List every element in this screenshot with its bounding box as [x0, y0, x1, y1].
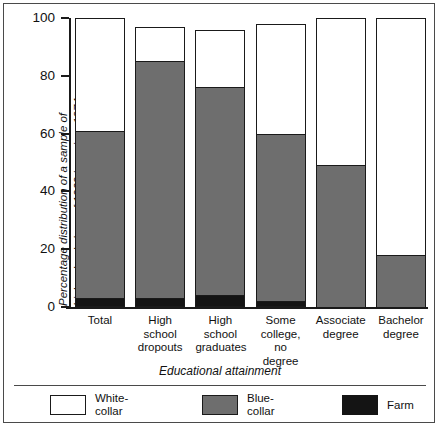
legend-label: White-collar	[95, 392, 128, 418]
bar-segment-white-collar[interactable]	[256, 24, 306, 134]
bar-segment-white-collar[interactable]	[316, 18, 366, 165]
x-tick-label-line: school	[135, 328, 185, 342]
legend-row: White-collarBlue-collarFarm	[50, 390, 426, 420]
y-tick-mark: 40	[61, 190, 69, 192]
bar-group	[75, 18, 426, 307]
x-axis-line	[66, 307, 428, 309]
white-collar-swatch	[50, 395, 86, 415]
bar-segment-farm[interactable]	[195, 295, 245, 307]
legend-item[interactable]: Farm	[342, 395, 426, 415]
y-tick-mark: 20	[61, 248, 69, 250]
x-tick-label: Total	[75, 314, 125, 362]
bar-column[interactable]	[256, 18, 306, 307]
y-tick-label: 20	[40, 241, 55, 256]
bar-column[interactable]	[376, 18, 426, 307]
legend-item[interactable]: Blue-collar	[202, 392, 342, 418]
x-tick-label: Highschooldropouts	[135, 314, 185, 362]
x-tick-label-line: degree	[316, 328, 366, 342]
x-tick-label-line: High	[195, 314, 245, 328]
bar-column[interactable]	[135, 18, 185, 307]
x-tick-label-line: Total	[75, 314, 125, 328]
legend-label-line: collar	[95, 405, 128, 418]
farm-swatch	[342, 395, 378, 415]
legend-label-line: Blue-	[247, 392, 274, 405]
bar-segment-blue-collar[interactable]	[75, 131, 125, 299]
legend-label-line: White-	[95, 392, 128, 405]
x-tick-label-line: college,	[256, 328, 306, 342]
bar-segment-blue-collar[interactable]	[256, 134, 306, 302]
y-axis-title: Percentage distribution of a sample of h…	[12, 4, 58, 314]
legend-label-line: Farm	[387, 399, 414, 412]
chart-figure: Percentage distribution of a sample of h…	[3, 3, 435, 423]
y-tick-mark: 100	[61, 17, 69, 19]
y-tick-label: 100	[32, 10, 55, 25]
x-tick-label-line: graduates	[195, 341, 245, 355]
bar-segment-white-collar[interactable]	[376, 18, 426, 255]
blue-collar-swatch	[202, 395, 238, 415]
bar-segment-white-collar[interactable]	[75, 18, 125, 131]
y-tick-mark: 0	[61, 306, 69, 308]
plot-area: 020406080100	[66, 15, 428, 309]
legend-label: Farm	[387, 399, 414, 412]
y-axis-line	[69, 18, 71, 307]
bar-segment-blue-collar[interactable]	[135, 61, 185, 298]
x-axis-title: Educational attainment	[4, 364, 436, 378]
x-tick-label-line: degree	[376, 328, 426, 342]
y-tick-label: 0	[47, 299, 55, 314]
x-axis-tick-labels: TotalHighschooldropoutsHighschoolgraduat…	[75, 314, 426, 362]
chart-legend: White-collarBlue-collarFarm	[14, 385, 426, 423]
x-tick-label-line: dropouts	[135, 341, 185, 355]
x-tick-label-line: Associate	[316, 314, 366, 328]
legend-label: Blue-collar	[247, 392, 274, 418]
x-tick-label: Bachelordegree	[376, 314, 426, 362]
x-tick-label-line: High	[135, 314, 185, 328]
bar-segment-white-collar[interactable]	[135, 27, 185, 62]
y-tick-label: 40	[40, 183, 55, 198]
bar-segment-blue-collar[interactable]	[316, 165, 366, 307]
y-tick-mark: 80	[61, 75, 69, 77]
bar-segment-farm[interactable]	[256, 301, 306, 307]
bar-segment-white-collar[interactable]	[195, 30, 245, 88]
bar-column[interactable]	[316, 18, 366, 307]
x-tick-label: Associatedegree	[316, 314, 366, 362]
x-tick-label: Highschoolgraduates	[195, 314, 245, 362]
bar-segment-farm[interactable]	[75, 298, 125, 307]
bar-column[interactable]	[195, 18, 245, 307]
x-tick-label-line: Bachelor	[376, 314, 426, 328]
y-tick-mark: 60	[61, 133, 69, 135]
bar-segment-blue-collar[interactable]	[195, 87, 245, 295]
bar-segment-blue-collar[interactable]	[376, 255, 426, 307]
y-tick-label: 60	[40, 125, 55, 140]
legend-item[interactable]: White-collar	[50, 392, 202, 418]
y-tick-label: 80	[40, 67, 55, 82]
x-tick-label: Somecollege,no degree	[256, 314, 306, 362]
legend-label-line: collar	[247, 405, 274, 418]
bar-column[interactable]	[75, 18, 125, 307]
bar-segment-farm[interactable]	[135, 298, 185, 307]
x-tick-label-line: Some	[256, 314, 306, 328]
x-tick-label-line: school	[195, 328, 245, 342]
